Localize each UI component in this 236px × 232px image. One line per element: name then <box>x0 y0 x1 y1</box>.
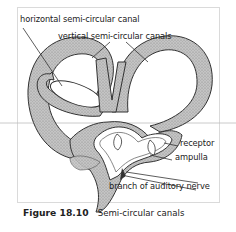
label-receptor: receptor <box>180 138 214 148</box>
right-vertical-canal <box>112 36 212 132</box>
label-nerve: branch of auditory nerve <box>109 181 210 191</box>
figure-caption: Figure 18.10 Semi-circular canals <box>23 201 184 220</box>
label-vertical-canals: vertical semi-circular canals <box>58 31 171 41</box>
figure-number: Figure 18.10 <box>23 207 89 218</box>
figure-title: Semi-circular canals <box>98 208 185 218</box>
label-ampulla: ampulla <box>175 152 208 162</box>
label-horizontal-canal: horizontal semi-circular canal <box>20 14 139 24</box>
